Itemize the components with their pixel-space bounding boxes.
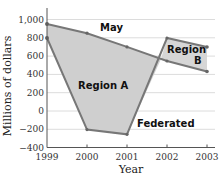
x-tick: 2003: [196, 152, 219, 162]
region-a-label: Region A: [78, 80, 129, 91]
federated-label: Federated: [137, 118, 195, 129]
y-tick: 1,000: [18, 15, 44, 25]
region-b-label-line1: Region: [167, 44, 206, 55]
chart: 1,000 800 600 400 200 0 −200 −400 1999 2…: [0, 0, 222, 178]
x-tick-labels: 1999 2000 2001 2002 2003: [36, 152, 219, 162]
x-tick: 2001: [116, 152, 139, 162]
y-tick: 800: [27, 33, 44, 43]
y-tick: −200: [19, 124, 44, 134]
y-tick-labels: 1,000 800 600 400 200 0 −200 −400: [18, 15, 44, 153]
y-tick: 200: [27, 88, 44, 98]
y-tick: −400: [19, 143, 44, 153]
may-label: May: [100, 22, 123, 33]
x-tick: 1999: [36, 152, 59, 162]
y-tick: 600: [27, 51, 44, 61]
region-b-label-line2: B: [194, 55, 202, 66]
x-axis-title: Year: [118, 163, 144, 176]
y-tick: 400: [27, 69, 44, 79]
y-axis-title: Millions of dollars: [1, 35, 14, 136]
x-tick: 2002: [156, 152, 179, 162]
x-tick: 2000: [76, 152, 99, 162]
y-tick: 0: [38, 106, 44, 116]
